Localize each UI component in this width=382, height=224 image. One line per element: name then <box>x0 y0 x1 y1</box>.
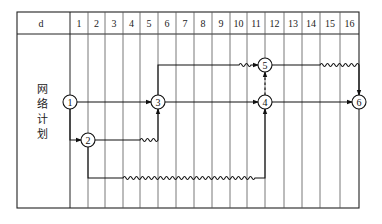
column-header: 4 <box>129 18 134 29</box>
column-header: 12 <box>270 18 280 29</box>
node-6: 6 <box>352 95 366 109</box>
arrow-2-3 <box>95 109 158 142</box>
column-header: 3 <box>112 18 117 29</box>
corner-label: d <box>39 18 44 29</box>
node-1: 1 <box>63 95 77 109</box>
column-header: 9 <box>219 18 224 29</box>
side-label-char: 络 <box>37 97 48 111</box>
column-header: 13 <box>288 18 298 29</box>
node-label: 3 <box>156 97 161 108</box>
side-label-char: 计 <box>37 113 48 126</box>
side-label: 网 络 计 划 <box>37 83 48 141</box>
network-arrows <box>70 64 359 180</box>
arrow-1-2 <box>70 109 81 140</box>
node-2: 2 <box>81 133 95 147</box>
column-header: 15 <box>325 18 335 29</box>
side-label-char: 划 <box>37 128 48 141</box>
side-label-char: 网 <box>37 83 48 96</box>
node-label: 2 <box>86 135 91 146</box>
column-header: 6 <box>165 18 170 29</box>
column-header: 2 <box>94 18 99 29</box>
node-label: 1 <box>68 97 73 108</box>
column-header: 7 <box>183 18 188 29</box>
column-header: 5 <box>147 18 152 29</box>
arrow-3-5 <box>158 64 258 96</box>
node-label: 6 <box>357 97 362 108</box>
arrow-5-6 <box>272 64 359 96</box>
column-header: 1 <box>77 18 82 29</box>
column-header: 8 <box>201 18 206 29</box>
column-header: 16 <box>345 18 355 29</box>
column-headers: 1 2 3 4 5 6 7 8 9 10 11 12 13 14 15 16 <box>77 18 355 29</box>
column-header: 11 <box>251 18 261 29</box>
node-5: 5 <box>258 58 272 72</box>
node-3: 3 <box>151 95 165 109</box>
node-label: 5 <box>263 60 268 71</box>
arrow-2-4 <box>88 109 265 180</box>
column-header: 10 <box>234 18 244 29</box>
node-4: 4 <box>258 95 272 109</box>
node-label: 4 <box>263 97 268 108</box>
time-scaled-network-diagram: d 1 2 3 4 5 6 7 8 9 10 11 12 13 14 15 16… <box>0 0 382 224</box>
column-header: 14 <box>306 18 316 29</box>
